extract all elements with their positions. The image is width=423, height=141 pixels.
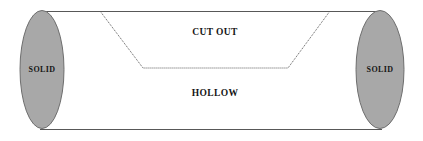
right-solid-label: SOLID bbox=[367, 65, 394, 74]
cylinder-cutout-diagram: SOLID SOLID CUT OUT HOLLOW bbox=[0, 0, 423, 141]
left-solid-label: SOLID bbox=[29, 65, 56, 74]
diagram-canvas: SOLID SOLID CUT OUT HOLLOW bbox=[0, 0, 423, 141]
cut-out-label: CUT OUT bbox=[192, 27, 238, 37]
cut-out-boundary bbox=[100, 11, 330, 68]
hollow-label: HOLLOW bbox=[192, 88, 239, 98]
